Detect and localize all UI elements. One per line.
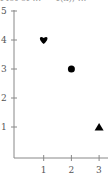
x-tick-label: 2 — [68, 165, 74, 175]
y-axis: 12345 — [1, 6, 17, 158]
circle-marker-icon — [68, 66, 75, 73]
y-tick-label: 2 — [1, 93, 7, 103]
y-tick-label: 3 — [1, 64, 7, 74]
y-tick-label: 1 — [1, 122, 7, 132]
data-points — [40, 37, 104, 131]
heart-marker-icon — [40, 37, 48, 44]
x-axis: 123 — [14, 155, 108, 175]
y-tick-label: 4 — [1, 35, 7, 45]
x-tick-label: 1 — [41, 165, 47, 175]
triangle-marker-icon — [95, 123, 104, 131]
scatter-chart: 12345 123 — [0, 0, 108, 176]
y-tick-label: 5 — [1, 6, 7, 16]
x-tick-label: 3 — [96, 165, 102, 175]
